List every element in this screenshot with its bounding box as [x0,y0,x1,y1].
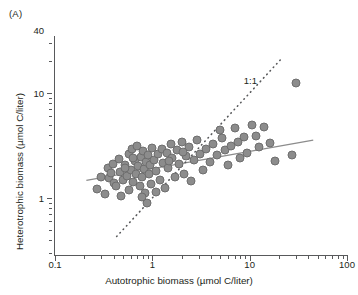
scatter-point [92,184,101,193]
scatter-point [161,183,170,192]
x-axis-title: Autotrophic biomass (µmol C/liter) [0,275,358,286]
scatter-point [230,124,239,133]
scatter-point [240,133,249,142]
scatter-point [212,151,221,160]
scatter-point [205,158,214,167]
y-axis-title: Heterotrophic biomass (µmol C/liter) [14,93,25,250]
scatter-point [259,123,268,132]
one-to-one-label: 1:1 [244,75,257,86]
scatter-point [170,172,179,181]
scatter-point [187,177,196,186]
scatter-point [198,165,207,174]
scatter-point [178,147,187,156]
scatter-point [208,139,217,148]
scatter-point [193,135,202,144]
scatter-point [175,160,184,169]
scatter-point [247,120,256,129]
scatter-point [270,157,279,166]
scatter-point [251,131,260,140]
scatter-point [243,148,252,157]
scatter-point [138,193,147,202]
scatter-point [121,164,130,173]
scatter-point [218,134,227,143]
scatter-point [265,138,274,147]
scatter-point [164,157,173,166]
scatter-point [255,143,264,152]
scatter-point [151,187,160,196]
scatter-point [287,151,296,160]
figure-panel-a: (A) 0.1110100 11040 1:1 Autotrophic biom… [0,0,358,295]
scatter-point [292,78,301,87]
scatter-point [128,153,137,162]
scatter-point [117,191,126,200]
scatter-point [101,190,110,199]
scatter-point [125,185,134,194]
scatter-point [224,161,233,170]
